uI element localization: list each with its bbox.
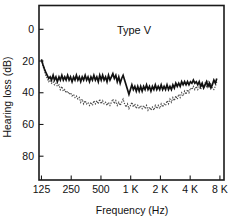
x-tick-label: 4 K — [182, 183, 198, 195]
x-axis-title: Frequency (Hz) — [96, 204, 168, 216]
y-tick-label: 20 — [22, 55, 34, 67]
y-tick-label: 60 — [22, 118, 34, 130]
chart-svg: 1252505001 K2 K4 K8 K 020406080 Type V F… — [0, 0, 240, 221]
chart-figure: 1252505001 K2 K4 K8 K 020406080 Type V F… — [0, 0, 240, 221]
x-tick-label: 125 — [33, 183, 51, 195]
plot-title: Type V — [117, 24, 152, 36]
y-tick-label: 80 — [22, 150, 34, 162]
x-tick-label: 250 — [62, 183, 80, 195]
y-axis-title: Hearing loss (dB) — [1, 56, 13, 137]
x-tick-label: 8 K — [212, 183, 228, 195]
y-tick-label: 40 — [22, 86, 34, 98]
x-tick-label: 1 K — [123, 183, 139, 195]
x-tick-label: 500 — [92, 183, 110, 195]
x-tick-label: 2 K — [153, 183, 169, 195]
y-tick-label: 0 — [28, 23, 34, 35]
